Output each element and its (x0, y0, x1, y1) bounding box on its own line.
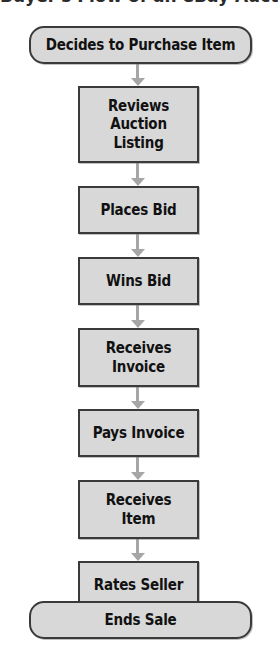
flow-node-decides-to-purchase-item: Decides to Purchase Item (29, 26, 252, 64)
flow-arrow (131, 163, 145, 186)
arrow-head-icon (131, 78, 145, 86)
flow-node-wins-bid: Wins Bid (78, 257, 199, 305)
arrow-head-icon (131, 178, 145, 186)
arrow-head-icon (131, 401, 145, 409)
arrow-stem (136, 305, 139, 320)
arrow-head-icon (131, 553, 145, 561)
flow-arrow (131, 539, 145, 561)
flow-node-label: Receives Invoice (106, 339, 172, 376)
flow-arrow (131, 387, 145, 409)
flow-node-label: Places Bid (100, 201, 176, 219)
arrow-stem (136, 539, 139, 553)
flow-node-places-bid: Places Bid (78, 186, 199, 234)
flow-arrow (131, 64, 145, 86)
flow-arrow (131, 234, 145, 257)
diagram-title-text: Buyer's Flow of an eBay Auction (0, 0, 278, 6)
diagram-title: Buyer's Flow of an eBay Auction (0, 0, 278, 6)
flow-node-label: Reviews Auction Listing (108, 97, 169, 152)
arrow-head-icon (131, 320, 145, 328)
flow-arrow (131, 305, 145, 328)
arrow-stem (136, 64, 139, 78)
flow-node-receives-item: Receives Item (78, 480, 199, 539)
arrow-stem (136, 387, 139, 401)
flow-arrow (131, 457, 145, 480)
flow-node-label: Receives Item (106, 491, 172, 528)
arrow-stem (136, 457, 139, 472)
flow-node-reviews-auction-listing: Reviews Auction Listing (78, 86, 199, 163)
flow-node-pays-invoice: Pays Invoice (78, 409, 199, 457)
flowchart-diagram: Buyer's Flow of an eBay AuctionDecides t… (0, 0, 278, 655)
flow-node-label: Pays Invoice (93, 424, 185, 442)
flow-node-receives-invoice: Receives Invoice (78, 328, 199, 387)
flow-node-label: Ends Sale (104, 611, 176, 629)
arrow-head-icon (131, 472, 145, 480)
flow-node-label: Wins Bid (106, 272, 171, 290)
arrow-head-icon (131, 249, 145, 257)
arrow-stem (136, 234, 139, 249)
arrow-stem (136, 163, 139, 178)
flow-node-ends-sale: Ends Sale (29, 601, 252, 639)
flow-node-label: Rates Seller (94, 576, 183, 594)
flow-node-label: Decides to Purchase Item (46, 36, 236, 54)
